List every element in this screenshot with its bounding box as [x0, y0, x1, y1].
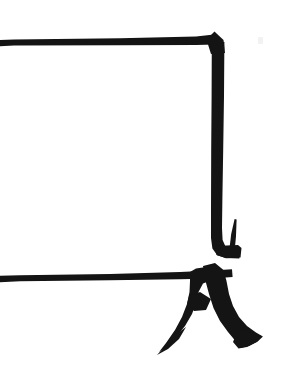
stroke-you-na-tail	[233, 330, 263, 349]
stroke-hook-foot	[215, 245, 242, 258]
calligraphy-glyph-svg	[0, 0, 282, 379]
ink-strokes-group	[0, 32, 263, 356]
stroke-heng-top	[0, 35, 215, 47]
stroke-hook-tick	[230, 219, 237, 247]
calligraphy-canvas	[0, 0, 282, 379]
paper-speck	[258, 37, 263, 44]
stroke-you-pie-tail	[157, 327, 186, 355]
